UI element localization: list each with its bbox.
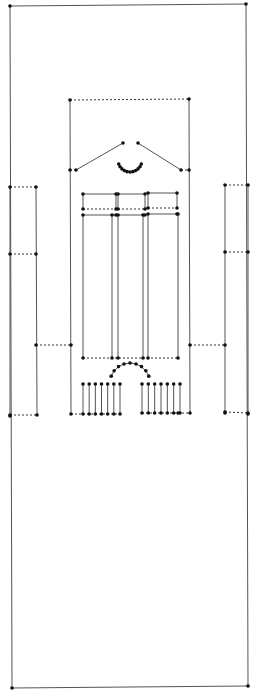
- node-dot: [34, 343, 38, 347]
- node-dot: [87, 382, 91, 386]
- dashed-edge: [225, 412, 248, 413]
- node-dot: [140, 411, 144, 415]
- node-dot: [136, 141, 140, 145]
- node-dot: [146, 212, 150, 216]
- solid-edge: [12, 686, 248, 688]
- node-dot: [147, 382, 151, 386]
- node-dot: [128, 361, 132, 365]
- node-dot: [109, 374, 113, 378]
- node-dot: [69, 343, 73, 347]
- node-dot: [146, 206, 150, 210]
- node-dot: [187, 97, 191, 101]
- node-dot: [116, 192, 120, 196]
- solid-edge: [76, 143, 123, 170]
- node-dot: [223, 343, 227, 347]
- node-dot: [188, 343, 192, 347]
- node-dot: [100, 412, 104, 416]
- node-dot: [116, 213, 120, 217]
- node-dot: [81, 412, 85, 416]
- node-dot: [175, 191, 179, 195]
- node-dot: [140, 382, 144, 386]
- node-dot: [68, 168, 72, 172]
- node-dot: [175, 206, 179, 210]
- node-dot: [153, 411, 157, 415]
- solid-edge: [138, 143, 181, 170]
- node-dot: [223, 250, 227, 254]
- node-dot: [134, 362, 138, 366]
- node-dot: [166, 411, 170, 415]
- node-dot: [100, 382, 104, 386]
- node-dot: [8, 185, 12, 189]
- node-dot: [179, 168, 183, 172]
- node-dot: [118, 412, 122, 416]
- node-dot: [94, 412, 98, 416]
- node-dot: [141, 213, 145, 217]
- node-dot: [81, 356, 85, 360]
- node-dot: [146, 356, 150, 360]
- node-dot: [106, 382, 110, 386]
- node-dot: [74, 168, 78, 172]
- solid-edge: [189, 99, 190, 413]
- node-dot: [178, 411, 182, 415]
- node-dot: [144, 369, 148, 373]
- node-dot: [81, 382, 85, 386]
- node-dot: [110, 356, 114, 360]
- node-dot: [147, 411, 151, 415]
- node-dot: [117, 365, 121, 369]
- solid-edges: [10, 4, 248, 688]
- node-dot: [122, 362, 126, 366]
- node-dot: [69, 412, 73, 416]
- node-dot: [176, 356, 180, 360]
- node-dot: [121, 141, 125, 145]
- node-dot: [10, 686, 14, 690]
- node-dot: [172, 382, 176, 386]
- node-dot: [244, 2, 248, 6]
- node-dot: [112, 382, 116, 386]
- node-dots: [8, 2, 250, 690]
- node-dot: [187, 168, 191, 172]
- node-dot: [246, 250, 250, 254]
- balustrade-edges: [83, 384, 180, 414]
- solid-edge: [10, 4, 246, 6]
- node-dot: [153, 382, 157, 386]
- node-dot: [118, 382, 122, 386]
- node-dot: [223, 183, 227, 187]
- node-dot: [34, 185, 38, 189]
- node-dot: [35, 413, 39, 417]
- node-dot: [8, 252, 12, 256]
- node-dot: [8, 4, 12, 8]
- node-dot: [116, 356, 120, 360]
- node-dot: [246, 411, 250, 415]
- solid-edge: [70, 100, 71, 414]
- node-dot: [178, 382, 182, 386]
- node-dot: [34, 252, 38, 256]
- node-dot: [116, 207, 120, 211]
- node-dot: [246, 684, 250, 688]
- node-dot: [81, 213, 85, 217]
- node-dot: [106, 412, 110, 416]
- facade-line-diagram: [0, 0, 258, 693]
- node-dot: [81, 192, 85, 196]
- node-dot: [188, 411, 192, 415]
- node-dot: [147, 374, 151, 378]
- node-dot: [68, 98, 72, 102]
- node-dot: [140, 365, 144, 369]
- solid-edge: [36, 187, 37, 415]
- node-dot: [246, 183, 250, 187]
- node-dot: [166, 382, 170, 386]
- node-dot: [159, 382, 163, 386]
- dashed-edges: [10, 99, 248, 415]
- node-dot: [159, 411, 163, 415]
- node-dot: [176, 212, 180, 216]
- node-dot: [141, 356, 145, 360]
- node-dot: [112, 369, 116, 373]
- node-dot: [8, 413, 12, 417]
- node-dot: [139, 162, 143, 166]
- node-dot: [112, 412, 116, 416]
- node-dot: [81, 207, 85, 211]
- node-dot: [87, 412, 91, 416]
- dashed-edge: [70, 99, 189, 100]
- node-dot: [110, 213, 114, 217]
- node-dot: [172, 411, 176, 415]
- node-dot: [223, 410, 227, 414]
